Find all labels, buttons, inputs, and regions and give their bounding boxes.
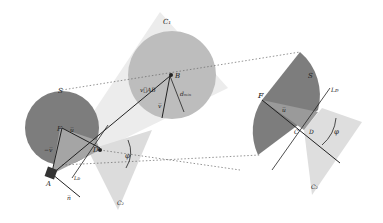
label-n: n̅ bbox=[67, 194, 71, 201]
point-b bbox=[169, 73, 173, 77]
label-s-right: S bbox=[308, 72, 313, 80]
label-c2-right: C₂ bbox=[311, 183, 319, 190]
label-f-right: F bbox=[257, 91, 264, 100]
label-a: A bbox=[45, 180, 51, 188]
label-c-right: C bbox=[294, 128, 299, 135]
label-c2-left: C₂ bbox=[117, 199, 125, 206]
label-d-right: D bbox=[308, 128, 314, 135]
label-dmin: dₘᵢₙ bbox=[180, 90, 192, 97]
label-phi-right: φ bbox=[334, 128, 339, 136]
diagram-canvas: C₁ S B v⃗AB v̅ dₘᵢₙ F u̅ −v̅ D A Lᴅ n̅ φ… bbox=[0, 0, 383, 223]
label-lf-left: Lᴅ bbox=[73, 175, 80, 181]
label-b: B bbox=[174, 72, 180, 80]
label-u-left: u̅ bbox=[70, 126, 74, 133]
label-lf-right: Lᴅ bbox=[330, 86, 339, 93]
label-c1: C₁ bbox=[163, 18, 171, 26]
label-d-left: D bbox=[92, 146, 99, 154]
label-phi-left: φ bbox=[125, 152, 130, 160]
label-vab: v⃗AB bbox=[140, 86, 156, 94]
label-u-right: u̅ bbox=[282, 106, 286, 113]
cone-c2-right bbox=[304, 108, 362, 195]
label-s-left: S bbox=[58, 87, 63, 95]
label-neg-v: −v̅ bbox=[44, 146, 53, 153]
